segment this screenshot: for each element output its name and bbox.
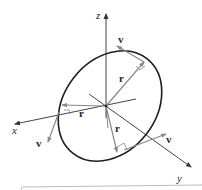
bottom-rule (22, 185, 202, 187)
orbit-ellipse (37, 30, 183, 181)
r-label-left: r (79, 107, 84, 119)
r-label-upper: r (119, 72, 124, 84)
z-axis-label: z (95, 9, 101, 21)
v-label-left: v (36, 137, 42, 149)
r-vector-left (62, 105, 106, 106)
r-label-lower: r (115, 122, 120, 134)
v-label-lower: v (166, 133, 172, 145)
x-axis (15, 99, 136, 124)
bottom-rule-tick (21, 187, 22, 190)
orbit-diagram: z x y r v r v r v (0, 0, 202, 190)
origin-point (105, 105, 108, 108)
x-axis-label: x (11, 124, 17, 136)
y-axis-label: y (176, 172, 182, 184)
v-label-upper: v (118, 33, 124, 45)
y-axis (89, 94, 191, 167)
